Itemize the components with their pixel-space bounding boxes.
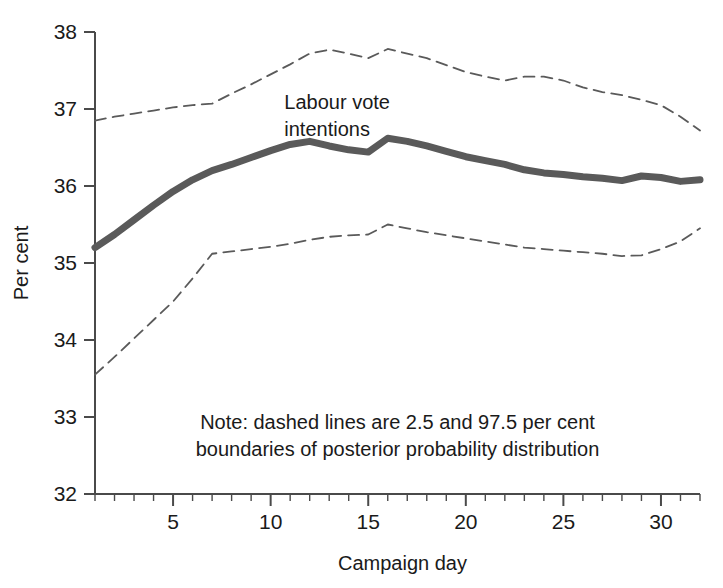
x-tick-label: 5 [167,510,179,533]
line-chart: 32333435363738 51015202530 Per cent Camp… [0,0,723,588]
series-label-line2: intentions [284,118,370,140]
x-tick-label: 30 [649,510,672,533]
y-tick-label: 35 [54,251,77,274]
series-line-2 [95,225,700,375]
y-tick-label: 34 [54,328,78,351]
data-series-group [95,49,700,375]
note-line2: boundaries of posterior probability dist… [196,438,600,460]
x-tick-label: 25 [552,510,575,533]
x-axis-ticks: 51015202530 [95,494,700,533]
x-tick-label: 15 [357,510,380,533]
series-line-0 [95,138,700,247]
series-label-line1: Labour vote [284,91,390,113]
y-axis-title: Per cent [10,225,32,300]
y-tick-label: 33 [54,405,77,428]
y-tick-label: 38 [54,20,77,43]
y-axis-ticks: 32333435363738 [54,20,95,505]
chart-container: 32333435363738 51015202530 Per cent Camp… [0,0,723,588]
y-tick-label: 37 [54,97,77,120]
x-tick-label: 10 [259,510,282,533]
x-axis-title: Campaign day [338,552,467,574]
y-tick-label: 32 [54,482,77,505]
x-tick-label: 20 [454,510,477,533]
note-line1: Note: dashed lines are 2.5 and 97.5 per … [200,411,595,433]
y-tick-label: 36 [54,174,77,197]
series-line-1 [95,49,700,131]
